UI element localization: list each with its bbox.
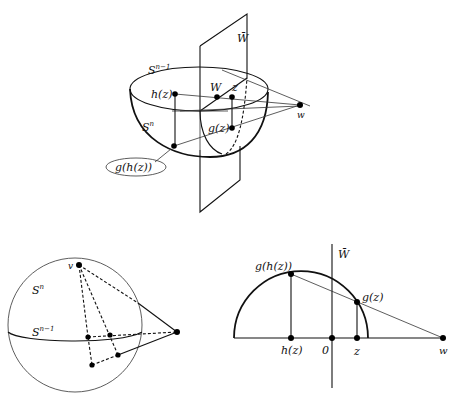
label-g-z: g(z) xyxy=(208,122,229,135)
label-W: W xyxy=(210,81,223,94)
diagram-canvas: W̄ Sn−1 Sn h(z) W z g(z) g(h(z)) w xyxy=(0,0,455,402)
label-v: v xyxy=(68,261,73,271)
label-w: w xyxy=(439,345,448,356)
label-sphere: Sn xyxy=(32,283,45,297)
label-g-h-z: g(h(z)) xyxy=(255,260,292,273)
point-z xyxy=(229,94,235,100)
label-h-z: h(z) xyxy=(151,88,172,101)
sphere-outline xyxy=(8,258,142,392)
label-z: z xyxy=(231,81,238,94)
label-g-h-z: g(h(z)) xyxy=(115,161,152,174)
point-h-z xyxy=(172,91,178,97)
label-w: w xyxy=(297,110,305,120)
label-hemisphere: Sn xyxy=(142,120,155,134)
label-equator: Sn−1 xyxy=(32,325,54,339)
equator xyxy=(8,332,142,341)
point-external xyxy=(174,329,180,335)
label-boundary-sphere: Sn−1 xyxy=(148,63,170,77)
point-g-h-z xyxy=(171,143,177,149)
point-g-z xyxy=(229,125,235,131)
label-plane-w-bar: W̄ xyxy=(237,32,250,45)
point-w xyxy=(297,102,303,108)
point-origin xyxy=(329,335,335,341)
label-z: z xyxy=(353,345,360,358)
point-W xyxy=(214,94,220,100)
point-z xyxy=(354,335,360,341)
point-v xyxy=(76,262,82,268)
figure-bottom-right-cross-section: W̄ g(h(z)) g(z) h(z) 0 z w xyxy=(234,244,448,388)
figure-top-hemisphere: W̄ Sn−1 Sn h(z) W z g(z) g(h(z)) w xyxy=(106,14,310,212)
point-w xyxy=(440,335,446,341)
label-h-z: h(z) xyxy=(281,344,302,357)
point-h-z xyxy=(288,335,294,341)
semicircle xyxy=(234,271,368,338)
figure-bottom-left-sphere: v Sn Sn−1 xyxy=(8,258,180,392)
label-plane-w-bar: W̄ xyxy=(338,248,351,261)
label-g-z: g(z) xyxy=(362,291,383,304)
point-g-z xyxy=(354,299,360,305)
label-origin: 0 xyxy=(322,344,329,357)
